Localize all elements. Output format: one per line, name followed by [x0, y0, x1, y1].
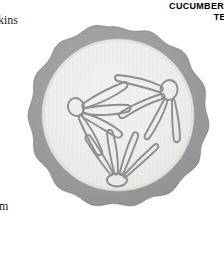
cucumber-cross-section-illustration [0, 24, 224, 253]
caption-line-2: TEMP [169, 12, 224, 23]
caption-line-1: CUCUMBER [169, 1, 224, 12]
page-canvas: CUCUMBER TEMP kins m [0, 0, 224, 253]
figure-caption: CUCUMBER TEMP [169, 1, 224, 23]
